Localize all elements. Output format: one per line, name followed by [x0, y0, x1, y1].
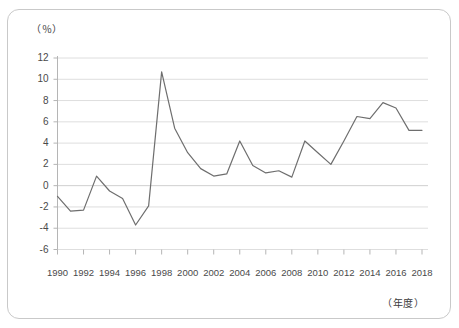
y-tick-label: 8 — [29, 95, 49, 106]
y-tick-label: 6 — [29, 116, 49, 127]
y-tick-label: -6 — [29, 244, 49, 255]
y-tick-label: 12 — [29, 52, 49, 63]
y-tick-label: 2 — [29, 158, 49, 169]
y-tick-label: 4 — [29, 137, 49, 148]
line-chart-svg — [0, 0, 459, 328]
y-tick-label: -4 — [29, 222, 49, 233]
chart-page: （％） （年度） -6-4-2024681012 199019921994199… — [0, 0, 459, 328]
data-series-line — [58, 72, 423, 225]
y-tick-label: -2 — [29, 201, 49, 212]
x-tick-label: 2018 — [407, 267, 437, 278]
y-tick-label: 0 — [29, 180, 49, 191]
plot-area — [0, 0, 459, 328]
y-tick-label: 10 — [29, 73, 49, 84]
